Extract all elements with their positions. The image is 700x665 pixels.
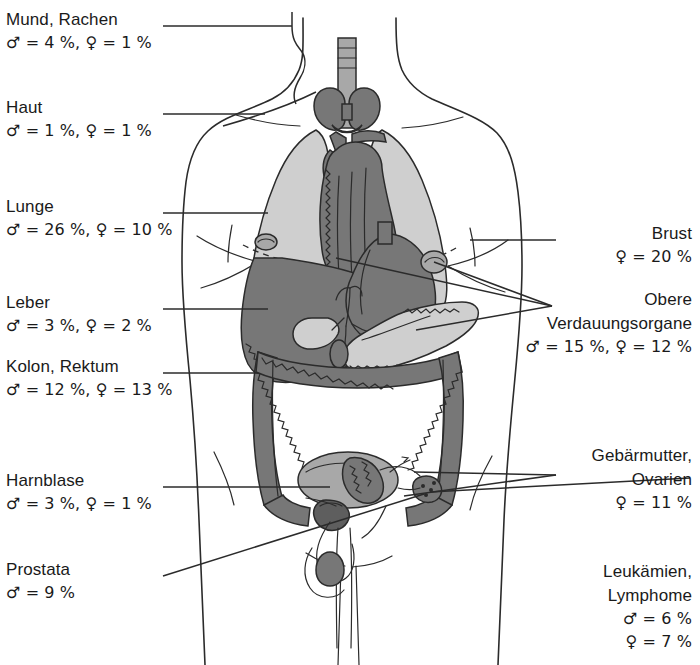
label-lunge-stats: ♂ = 26 %, ♀ = 10 % xyxy=(6,219,173,242)
label-gebaermutter-ovarien-title2: Ovarien xyxy=(592,468,692,492)
label-leukaemien-lymphome-title2: Lymphome xyxy=(603,584,692,608)
label-leber-title: Leber xyxy=(6,291,152,315)
label-leber-stats: ♂ = 3 %, ♀ = 2 % xyxy=(6,315,152,338)
rectum-hint xyxy=(362,506,386,538)
label-gebaermutter-ovarien: Gebärmutter, Ovarien ♀ = 11 % xyxy=(592,444,692,515)
label-obere-verdauungsorgane-title: Obere xyxy=(526,288,693,312)
label-prostata-stats: ♂ = 9 % xyxy=(6,582,75,605)
label-leber: Leber ♂ = 3 %, ♀ = 2 % xyxy=(6,291,152,338)
label-harnblase-stats: ♂ = 3 %, ♀ = 1 % xyxy=(6,493,152,516)
leader-gebaermutter-1 xyxy=(414,472,556,475)
label-mund-rachen-stats: ♂ = 4 %, ♀ = 1 % xyxy=(6,32,152,55)
label-lunge: Lunge ♂ = 26 %, ♀ = 10 % xyxy=(6,195,173,242)
label-leukaemien-lymphome: Leukämien, Lymphome ♂ = 6 % ♀ = 7 % xyxy=(603,560,692,654)
label-leukaemien-lymphome-title: Leukämien, xyxy=(603,560,692,584)
label-kolon-rektum-title: Kolon, Rektum xyxy=(6,355,173,379)
label-obere-verdauungsorgane-stats: ♂ = 15 %, ♀ = 12 % xyxy=(526,336,693,359)
label-brust: Brust ♀ = 20 % xyxy=(615,222,692,269)
label-leukaemien-lymphome-stats2: ♀ = 7 % xyxy=(603,631,692,654)
label-gebaermutter-ovarien-title: Gebärmutter, xyxy=(592,444,692,468)
label-haut-stats: ♂ = 1 %, ♀ = 1 % xyxy=(6,120,152,143)
label-kolon-rektum: Kolon, Rektum ♂ = 12 %, ♀ = 13 % xyxy=(6,355,173,402)
kidney-right xyxy=(255,234,277,250)
label-haut: Haut ♂ = 1 %, ♀ = 1 % xyxy=(6,96,152,143)
label-harnblase-title: Harnblase xyxy=(6,469,152,493)
label-mund-rachen: Mund, Rachen ♂ = 4 %, ♀ = 1 % xyxy=(6,8,152,55)
label-gebaermutter-ovarien-stats: ♀ = 11 % xyxy=(592,492,692,515)
label-obere-verdauungsorgane: Obere Verdauungsorgane ♂ = 15 %, ♀ = 12 … xyxy=(526,288,693,359)
cancer-incidence-diagram: .ol { fill:none; stroke:#2b2b2b; stroke-… xyxy=(0,0,700,665)
esophagus xyxy=(378,222,392,244)
label-brust-stats: ♀ = 20 % xyxy=(615,246,692,269)
label-prostata-title: Prostata xyxy=(6,558,75,582)
label-obere-verdauungsorgane-title2: Verdauungsorgane xyxy=(526,312,693,336)
label-leukaemien-lymphome-stats: ♂ = 6 % xyxy=(603,608,692,631)
label-haut-title: Haut xyxy=(6,96,152,120)
label-prostata: Prostata ♂ = 9 % xyxy=(6,558,75,605)
label-harnblase: Harnblase ♂ = 3 %, ♀ = 1 % xyxy=(6,469,152,516)
label-mund-rachen-title: Mund, Rachen xyxy=(6,8,152,32)
label-kolon-rektum-stats: ♂ = 12 %, ♀ = 13 % xyxy=(6,379,173,402)
label-lunge-title: Lunge xyxy=(6,195,173,219)
label-brust-title: Brust xyxy=(615,222,692,246)
